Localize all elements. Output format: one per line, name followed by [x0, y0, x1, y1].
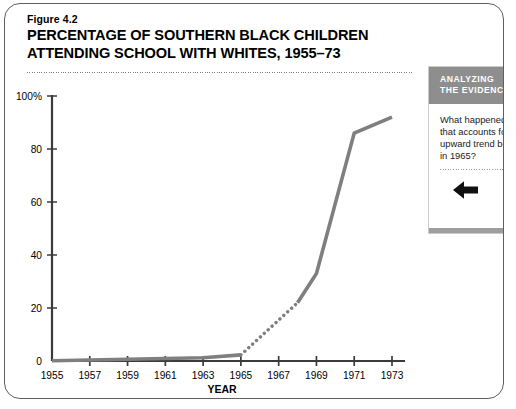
x-axis-title: YEAR: [207, 383, 237, 395]
y-axis-tick-label: 40: [31, 250, 43, 261]
x-axis-tick-label: 1959: [116, 370, 139, 381]
left-arrow-glyph: [451, 179, 481, 201]
y-axis-tick-label: 0: [36, 356, 42, 367]
left-arrow-icon: [440, 170, 504, 205]
x-axis-tick-label: 1963: [192, 370, 215, 381]
chart-series: [52, 117, 392, 361]
y-axis: 020406080100%: [16, 91, 57, 367]
x-axis-tick-label: 1971: [343, 370, 366, 381]
x-axis-tick-label: 1961: [154, 370, 177, 381]
evidence-panel-footer-bar: [429, 228, 504, 233]
chart-line: [241, 303, 298, 355]
x-axis-tick-label: 1965: [230, 370, 253, 381]
evidence-question-text: What happened in that accounts for upwar…: [440, 114, 504, 162]
x-axis-tick-label: 1973: [381, 370, 404, 381]
x-axis-tick-label: 1955: [41, 370, 64, 381]
evidence-panel-header: ANALYZING THE EVIDENCE: [429, 67, 504, 104]
analyzing-the-evidence-panel: ANALYZING THE EVIDENCE What happened in …: [429, 67, 504, 233]
y-axis-tick-label: 100%: [16, 91, 42, 102]
x-axis-tick-label: 1969: [305, 370, 328, 381]
chart-line: [52, 355, 241, 361]
y-axis-tick-label: 60: [31, 197, 43, 208]
y-axis-tick-label: 80: [31, 144, 43, 155]
x-axis-tick-label: 1957: [78, 370, 101, 381]
y-axis-tick-label: 20: [31, 303, 43, 314]
x-axis-tick-label: 1967: [267, 370, 290, 381]
chart-line: [298, 117, 392, 303]
figure-card: Figure 4.2 PERCENTAGE OF SOUTHERN BLACK …: [4, 3, 504, 399]
evidence-panel-body: What happened in that accounts for upwar…: [429, 104, 504, 213]
